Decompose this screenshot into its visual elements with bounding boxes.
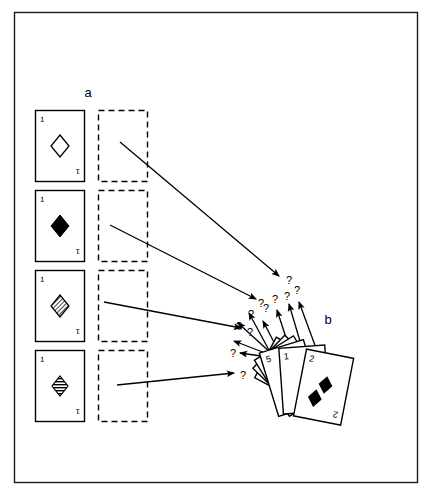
card-rank-top-left: 1 xyxy=(40,195,45,204)
question-mark-2: ? xyxy=(247,326,253,338)
panel-a-label: a xyxy=(84,85,92,100)
card-rank-bottom-right: 1 xyxy=(75,167,80,176)
stimulus-card-3: 1 1 xyxy=(36,351,85,422)
question-mark-6: ? xyxy=(248,308,254,320)
card-rank-top-left: 1 xyxy=(40,275,45,284)
card-rank-bottom-right: 1 xyxy=(75,247,80,256)
figure-canvas: a 1 1 1 1 1 1 xyxy=(0,0,431,489)
card-rank-top-left: 1 xyxy=(40,355,45,364)
stimulus-card-0: 1 1 xyxy=(36,111,85,182)
question-mark-7: ? xyxy=(263,302,269,314)
panel-b-label: b xyxy=(324,312,331,327)
question-mark-5: ? xyxy=(236,320,242,332)
stimulus-card-2: 1 1 xyxy=(36,271,85,342)
card-rank-label: 1 xyxy=(284,351,290,361)
card-rank-top-left: 1 xyxy=(40,115,45,124)
question-mark-4: ? xyxy=(230,347,236,359)
question-mark-8: ? xyxy=(272,293,278,305)
question-mark-9: ? xyxy=(284,290,290,302)
card-rank-bottom-right: 1 xyxy=(75,407,80,416)
card-rank-bottom-right: 1 xyxy=(75,327,80,336)
figure-root: a 1 1 1 1 1 1 xyxy=(0,0,431,489)
question-mark-3: ? xyxy=(240,369,246,381)
stimulus-card-1: 1 1 xyxy=(36,191,85,262)
question-mark-10: ? xyxy=(294,284,300,296)
question-mark-0: ? xyxy=(286,274,292,286)
